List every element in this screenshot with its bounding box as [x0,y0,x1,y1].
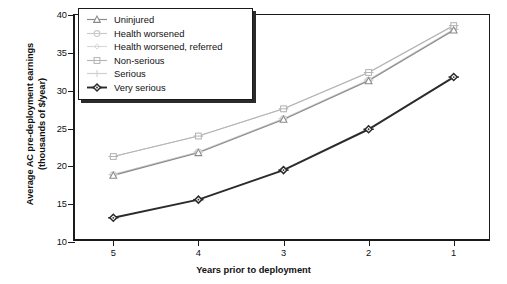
data-point-marker [93,70,102,77]
y-axis-tick-label: 10 [27,237,67,247]
data-point-marker [108,214,118,221]
legend-marker-diamond-dark-icon [85,81,111,94]
chart-legend: UninjuredHealth worsenedHealth worsened,… [78,8,253,100]
legend-item-label: Health worsened, referred [111,41,222,52]
data-point-marker [92,57,102,63]
legend-item[interactable]: Non-serious [85,54,246,68]
x-axis-tick-label: 5 [93,248,133,258]
x-axis-tick [369,239,370,246]
legend-marker-plus-icon [85,67,111,80]
y-axis-tick [68,91,75,92]
x-axis-tick [198,239,199,246]
legend-item-label: Serious [111,68,146,79]
y-axis-tick-label: 40 [27,10,67,20]
legend-item[interactable]: Serious [85,67,246,81]
data-point-marker [194,133,204,139]
x-axis-tick [113,239,114,246]
x-axis-tick [284,239,285,246]
legend-marker-circle-icon [85,27,111,40]
y-axis-tick-label: 30 [27,86,67,96]
legend-item[interactable]: Very serious [85,81,246,95]
legend-item[interactable]: Health worsened [85,27,246,41]
y-axis-tick [68,166,75,167]
data-point-marker [108,154,118,160]
legend-item-label: Very serious [111,82,166,93]
data-point-marker [364,70,374,76]
legend-item[interactable]: Health worsened, referred [85,40,246,54]
x-axis-tick [454,239,455,246]
data-point-marker [92,84,102,91]
y-axis-tick [68,204,75,205]
x-axis-title: Years prior to deployment [0,265,507,275]
data-point-marker [279,106,289,112]
legend-item[interactable]: Uninjured [85,13,246,27]
y-axis-tick [68,129,75,130]
x-axis-tick-label: 2 [349,248,389,258]
y-axis-tick-label: 15 [27,199,67,209]
legend-marker-square-icon [85,54,111,67]
y-axis-tick-label: 20 [27,161,67,171]
x-axis-tick-label: 1 [434,248,474,258]
legend-marker-triangle-icon [85,13,111,26]
y-axis-tick [68,15,75,16]
y-axis-tick [68,242,75,243]
legend-item-label: Uninjured [111,14,154,25]
y-axis-tick [68,53,75,54]
legend-item-label: Non-serious [111,55,165,66]
y-axis-tick-label: 35 [27,48,67,58]
chart-figure: Average AC pre-deployment earnings (thou… [0,0,507,284]
legend-item-label: Health worsened [111,28,184,39]
data-point-marker [92,30,101,36]
legend-marker-diamond-light-icon [85,40,111,53]
data-point-marker [193,196,203,203]
data-point-marker [92,44,102,49]
x-axis-tick-label: 3 [264,248,304,258]
y-axis-tick-label: 25 [27,124,67,134]
x-axis-tick-label: 4 [178,248,218,258]
